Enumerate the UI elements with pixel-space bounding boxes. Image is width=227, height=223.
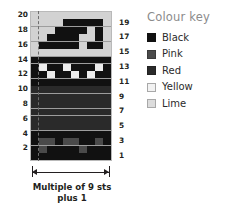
row-number-left: 4 — [8, 130, 28, 137]
legend-item-black: Black — [146, 30, 224, 45]
stitch-cell — [63, 123, 71, 130]
legend-swatch-black — [147, 33, 156, 42]
stitch-cell — [103, 146, 111, 153]
stitch-cell — [55, 101, 63, 108]
row-numbers-right-axis: 191715131197531 — [116, 10, 136, 162]
stitch-cell — [55, 109, 63, 116]
stitch-cell — [55, 49, 63, 56]
stitch-cell — [55, 71, 63, 78]
stitch-cell — [71, 71, 79, 78]
stitch-cell — [39, 12, 47, 19]
stitch-cell — [63, 71, 71, 78]
stitch-cell — [79, 19, 87, 26]
stitch-cell — [39, 123, 47, 130]
stitch-cell — [39, 138, 47, 145]
bracket-tick-right — [109, 166, 110, 177]
repeat-marker-line — [38, 11, 39, 161]
legend-swatch-lime — [147, 99, 156, 108]
stitch-cell — [47, 86, 55, 93]
legend-swatch-red — [147, 66, 156, 75]
row-number-right: 17 — [116, 33, 141, 40]
row-number-right: 9 — [116, 93, 141, 100]
stitch-cell — [47, 64, 55, 71]
legend-swatch-yellow — [147, 83, 156, 92]
stitch-cell — [103, 131, 111, 138]
chart-caption: Multiple of 9 sts plus 1 — [8, 182, 136, 204]
stitch-cell — [47, 109, 55, 116]
stitch-cell — [95, 131, 103, 138]
stitch-cell — [47, 19, 55, 26]
legend-label-pink: Pink — [162, 48, 183, 60]
stitch-cell — [39, 19, 47, 26]
stitch-cell — [87, 116, 95, 123]
stitch-cell — [71, 27, 79, 34]
stitch-cell — [39, 94, 47, 101]
legend-item-lime: Lime — [146, 96, 224, 111]
stitch-cell — [39, 131, 47, 138]
stitch-cell — [39, 153, 47, 160]
stitch-cell — [63, 57, 71, 64]
stitch-cell — [47, 34, 55, 41]
stitch-cell — [95, 109, 103, 116]
stitch-cell — [79, 116, 87, 123]
stitch-cell — [79, 12, 87, 19]
stitch-cell — [71, 138, 79, 145]
stitch-cell — [79, 109, 87, 116]
bracket-arrow-left-icon — [32, 169, 37, 175]
stitch-cell — [71, 19, 79, 26]
stitch-cell — [87, 123, 95, 130]
stitch-cell — [55, 42, 63, 49]
stitch-cell — [95, 12, 103, 19]
stitch-cell — [39, 42, 47, 49]
stitch-cell — [47, 27, 55, 34]
stitch-cell — [87, 153, 95, 160]
legend-label-red: Red — [162, 65, 181, 77]
stitch-cell — [87, 34, 95, 41]
stitch-cell — [63, 34, 71, 41]
stitch-cell — [95, 27, 103, 34]
width-bracket — [30, 166, 112, 178]
knitting-chart-figure: 2018161412108642 191715131197531 Multipl… — [0, 0, 227, 223]
stitch-cell — [95, 86, 103, 93]
stitch-cell — [87, 57, 95, 64]
legend-item-pink: Pink — [146, 47, 224, 62]
stitch-cell — [63, 94, 71, 101]
stitch-cell — [63, 49, 71, 56]
stitch-cell — [79, 34, 87, 41]
stitch-grid-container — [30, 11, 112, 161]
stitch-cell — [55, 79, 63, 86]
stitch-cell — [71, 123, 79, 130]
stitch-cell — [71, 86, 79, 93]
stitch-cell — [47, 101, 55, 108]
stitch-cell — [95, 34, 103, 41]
row-number-left: 6 — [8, 115, 28, 122]
stitch-cell — [55, 138, 63, 145]
stitch-cell — [63, 86, 71, 93]
legend-item-yellow: Yellow — [146, 80, 224, 95]
stitch-cell — [103, 86, 111, 93]
chart-block: 2018161412108642 191715131197531 Multipl… — [8, 10, 136, 188]
stitch-cell — [63, 101, 71, 108]
stitch-cell — [71, 109, 79, 116]
row-number-right: 1 — [116, 152, 141, 159]
row-number-right: 7 — [116, 107, 141, 114]
stitch-cell — [39, 101, 47, 108]
stitch-cell — [63, 27, 71, 34]
stitch-cell — [87, 49, 95, 56]
stitch-cell — [55, 57, 63, 64]
stitch-cell — [55, 94, 63, 101]
stitch-cell — [55, 86, 63, 93]
stitch-cell — [47, 131, 55, 138]
stitch-cell — [103, 49, 111, 56]
stitch-cell — [55, 34, 63, 41]
stitch-cell — [79, 71, 87, 78]
stitch-cell — [103, 79, 111, 86]
stitch-cell — [71, 49, 79, 56]
stitch-cell — [71, 146, 79, 153]
stitch-cell — [39, 146, 47, 153]
stitch-cell — [95, 64, 103, 71]
stitch-cell — [39, 116, 47, 123]
row-number-left: 18 — [8, 26, 28, 33]
stitch-cell — [103, 34, 111, 41]
stitch-cell — [55, 153, 63, 160]
